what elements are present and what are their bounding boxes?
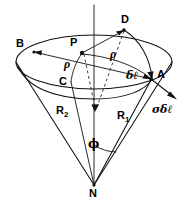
- label-point-c: C: [59, 76, 67, 87]
- dashed-line-from-p: [84, 54, 95, 108]
- radius-r2-group: [71, 82, 94, 185]
- label-point-b: B: [16, 38, 24, 49]
- label-rho-right: ρ: [110, 48, 116, 60]
- label-radius-r1-letter: R: [117, 109, 125, 121]
- rho-p-to-a-group: [82, 54, 151, 79]
- meridian-p-to-c-group: [71, 53, 82, 82]
- meridian-p-to-c-arc: [71, 53, 82, 82]
- figure-canvas: [0, 0, 188, 203]
- label-point-n: N: [89, 188, 97, 199]
- label-rho-left: ρ: [64, 58, 70, 70]
- node-dots-group: [32, 28, 153, 186]
- node-dot-b: [32, 50, 35, 53]
- dashed-line-arrowhead: [91, 104, 99, 112]
- label-phi: ϕ: [88, 138, 99, 150]
- node-dot-d: [122, 28, 126, 32]
- label-point-p: P: [70, 37, 77, 48]
- label-radius-r2: R2: [56, 105, 68, 119]
- radius-r2-line: [71, 82, 94, 185]
- cone-geometry-figure: B P C D A N ρ ρ δℓ σδℓ R2 R1 ϕ: [0, 0, 188, 203]
- label-radius-r1: R1: [117, 110, 129, 124]
- label-delta-l: δℓ: [126, 70, 138, 81]
- label-point-a: A: [157, 69, 165, 80]
- label-radius-r1-subscript: 1: [125, 115, 129, 124]
- label-radius-r2-letter: R: [56, 104, 64, 116]
- label-point-d: D: [121, 14, 129, 25]
- node-dot-p: [80, 51, 84, 55]
- rho-p-to-d-line: [82, 31, 123, 53]
- label-sigma-delta-l: σδℓ: [152, 104, 172, 115]
- node-dot-a: [149, 77, 153, 81]
- label-radius-r2-subscript: 2: [64, 110, 68, 119]
